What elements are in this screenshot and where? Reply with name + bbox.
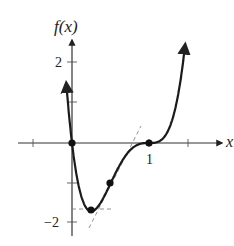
point-x-1 (145, 139, 152, 146)
x-tick-label-1: 1 (146, 152, 153, 167)
y-tick-label-neg2: −2 (44, 215, 59, 230)
x-axis-label: x (225, 133, 233, 150)
point-inflection (106, 179, 113, 186)
point-minimum (87, 206, 94, 213)
y-tick-label-2: 2 (55, 55, 62, 70)
function-plot: 1 x 2 −2 f(x) (0, 0, 234, 246)
dashed-guides (72, 126, 141, 228)
point-origin (68, 139, 75, 146)
function-curve (66, 44, 185, 211)
inflection-tangent-line (89, 126, 141, 228)
x-axis: 1 x (18, 133, 233, 167)
y-axis-label: f(x) (54, 17, 78, 36)
key-points (68, 139, 152, 213)
y-axis: 2 −2 f(x) (44, 17, 78, 236)
